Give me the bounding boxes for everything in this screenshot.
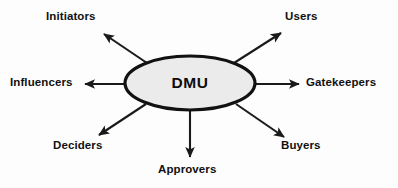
node-label-gatekeepers: Gatekeepers — [306, 77, 376, 89]
node-label-approvers: Approvers — [158, 164, 216, 176]
arrow-initiators — [104, 34, 147, 63]
node-label-deciders: Deciders — [53, 140, 102, 152]
node-label-influencers: Influencers — [10, 77, 72, 89]
arrow-buyers — [236, 104, 284, 137]
node-label-buyers: Buyers — [281, 140, 321, 152]
node-label-initiators: Initiators — [46, 11, 96, 23]
dmu-diagram: DMU Initiators Users Influencers Gatekee… — [0, 0, 398, 188]
dmu-center-label: DMU — [124, 75, 256, 91]
node-label-users: Users — [285, 11, 317, 23]
diagram-canvas — [0, 0, 398, 188]
arrow-deciders — [99, 104, 146, 135]
arrow-users — [234, 33, 281, 63]
